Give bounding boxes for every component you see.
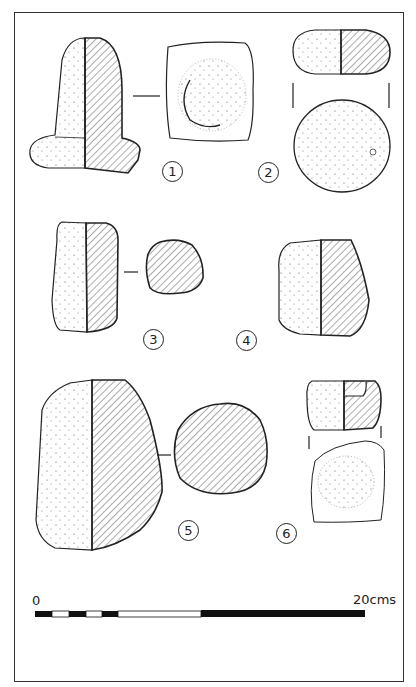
object-5-elevation <box>36 380 162 550</box>
object-1-plan <box>166 42 253 141</box>
scale-bar <box>35 610 365 617</box>
object-2-plan <box>294 100 390 192</box>
scale-start-label: 0 <box>32 593 40 608</box>
object-2-elevation <box>293 30 390 74</box>
object-6-elevation <box>307 381 381 430</box>
object-6-plan <box>311 441 384 522</box>
object-number-5: 5 <box>178 520 199 541</box>
object-5-section <box>174 403 267 493</box>
object-1-elevation <box>30 38 140 173</box>
object-number-4: 4 <box>236 330 257 351</box>
object-3-elevation <box>52 222 118 332</box>
object-number-6: 6 <box>276 523 297 544</box>
object-number-3: 3 <box>143 329 164 350</box>
artifact-drawings <box>0 0 416 687</box>
object-number-1: 1 <box>162 161 183 182</box>
object-number-2: 2 <box>258 162 279 183</box>
object-4-elevation <box>279 240 369 336</box>
scale-end-label: 20cms <box>353 592 396 607</box>
object-3-section <box>146 240 203 294</box>
